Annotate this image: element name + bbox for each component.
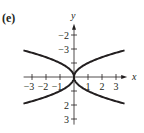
- x-axis-label: x: [131, 71, 137, 82]
- y-axis-arrow-icon: [72, 24, 76, 30]
- x-tick-label: 3: [114, 81, 119, 92]
- curve-branch: [74, 50, 125, 77]
- x-tick-label: −3: [24, 81, 35, 92]
- y-tick-label: 3: [64, 114, 69, 125]
- y-tick-label: −3: [58, 44, 69, 55]
- y-tick-label: 2: [64, 100, 69, 111]
- x-axis-arrow-icon: [121, 75, 127, 79]
- plot-area: −3−2−112332−2−3 x y: [0, 0, 144, 133]
- x-tick-label: −2: [38, 81, 49, 92]
- y-tick-label: −2: [58, 30, 69, 41]
- x-tick-label: 2: [100, 81, 105, 92]
- y-axis-label: y: [70, 10, 76, 21]
